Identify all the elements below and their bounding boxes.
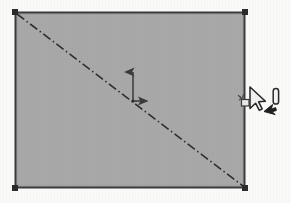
text-caret-icon[interactable] <box>273 89 278 105</box>
drawing-vector-layer[interactable] <box>0 0 291 203</box>
cad-canvas-app: CAD Drawing Canvas <box>0 0 291 203</box>
grip-handle-top-right[interactable] <box>242 9 248 15</box>
grip-handle-top-left[interactable] <box>12 9 18 15</box>
mouse-pointer-cursor[interactable] <box>250 87 265 110</box>
grip-handle-bottom-right[interactable] <box>242 185 248 191</box>
small-arrow-icon[interactable] <box>264 105 276 115</box>
origin-point[interactable] <box>131 99 134 102</box>
grip-handle-bottom-left[interactable] <box>12 185 18 191</box>
